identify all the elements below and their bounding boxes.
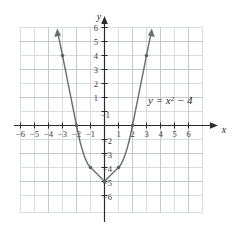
x-axis-label: x <box>221 124 227 135</box>
data-point <box>75 124 79 128</box>
y-tick-label: 1 <box>94 93 98 103</box>
y-tick-label: −3 <box>103 150 112 160</box>
x-tick-label: −4 <box>44 129 54 139</box>
x-tick-label: −3 <box>58 129 67 139</box>
svg-text:y = x2 − 4: y = x2 − 4 <box>147 94 193 106</box>
x-tick-label: −6 <box>16 129 25 139</box>
axes <box>14 16 218 222</box>
y-tick-label: 2 <box>94 79 98 89</box>
data-point <box>145 54 149 58</box>
x-tick-label: 1 <box>116 129 120 139</box>
data-point <box>117 166 121 170</box>
x-tick-label: −5 <box>30 129 39 139</box>
x-axis-arrow-icon <box>210 122 218 129</box>
x-tick-label: 5 <box>172 129 176 139</box>
y-tick-label: −2 <box>103 136 112 146</box>
y-axis-label: y <box>96 11 102 22</box>
y-tick-label: 5 <box>94 37 98 47</box>
data-point <box>61 54 65 58</box>
coordinate-plane: −6 −5 −4 −3 −2 −1 1 2 3 4 5 6 6 5 4 3 2 … <box>0 0 239 234</box>
equation-tail: − 4 <box>174 94 193 106</box>
curve-arrow-left-icon <box>54 29 61 38</box>
x-tick-label: 3 <box>144 129 148 139</box>
curve-arrow-right-icon <box>148 29 155 38</box>
y-tick-label: −6 <box>103 192 112 202</box>
x-tick-label: 4 <box>158 129 163 139</box>
data-point <box>103 180 107 184</box>
y-tick-label: 3 <box>94 65 98 75</box>
data-point <box>131 124 135 128</box>
equation-annotation: y = x2 − 4 <box>147 94 193 106</box>
x-tick-label: 6 <box>186 129 190 139</box>
graph-figure: −6 −5 −4 −3 −2 −1 1 2 3 4 5 6 6 5 4 3 2 … <box>0 0 239 234</box>
equation-base: y = x <box>147 94 171 106</box>
x-tick-label: −1 <box>86 129 95 139</box>
data-point <box>89 166 93 170</box>
y-tick-label: 6 <box>94 23 98 33</box>
y-axis-arrow-icon <box>101 16 108 24</box>
y-tick-label: −4 <box>103 164 113 174</box>
y-tick-label: −1 <box>101 110 110 120</box>
